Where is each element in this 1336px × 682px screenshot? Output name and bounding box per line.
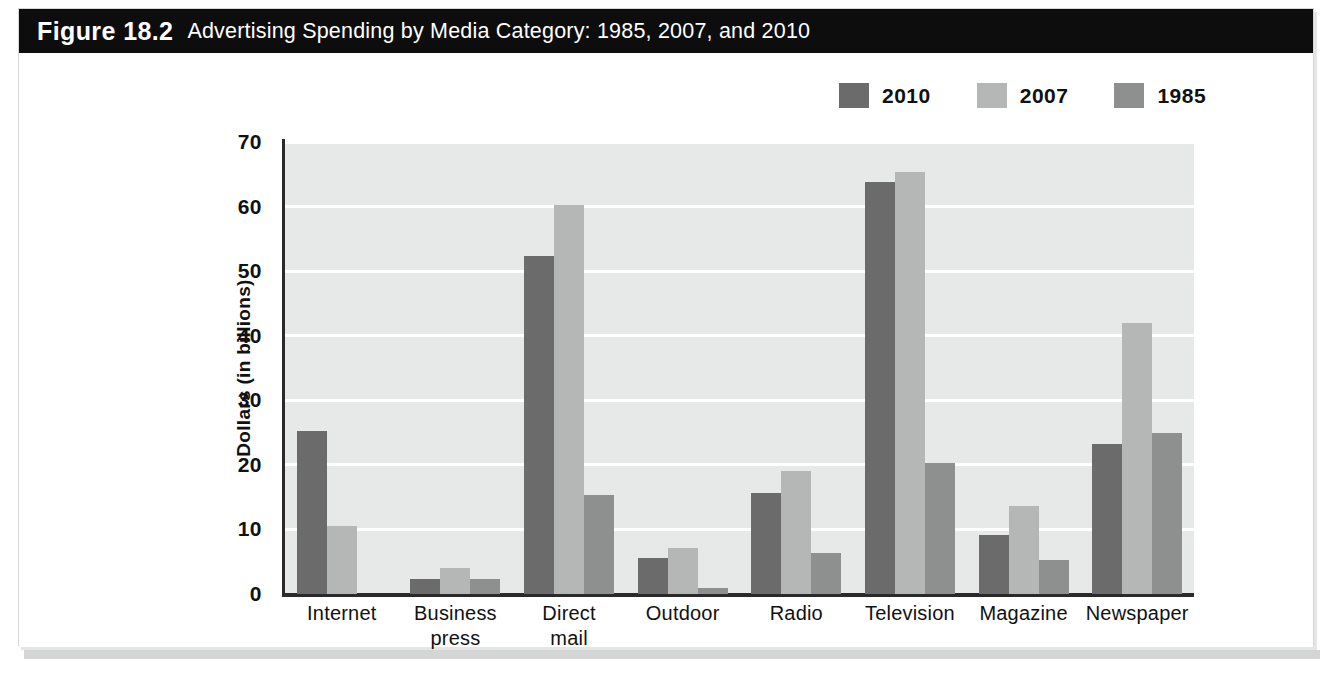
- bar: [440, 568, 470, 594]
- x-axis-label-line: press: [399, 626, 513, 651]
- legend-item-1985: 1985: [1114, 83, 1206, 108]
- bar: [865, 182, 895, 594]
- chart-legend: 201020071985: [839, 83, 1206, 108]
- bar: [751, 493, 781, 594]
- bar: [554, 205, 584, 594]
- bar: [638, 558, 668, 594]
- x-axis-label-line: Direct: [512, 601, 626, 626]
- x-axis-label-line: Outdoor: [626, 601, 740, 626]
- bar-group: [740, 142, 854, 594]
- legend-label-2007: 2007: [1020, 84, 1069, 108]
- x-axis-label-television: Television: [853, 601, 967, 651]
- card-shadow-strip: [24, 650, 1320, 659]
- x-axis-label-line: Television: [853, 601, 967, 626]
- x-axis-label-line: Business: [399, 601, 513, 626]
- bar-group: [512, 142, 626, 594]
- figure-number: Figure 18.2: [37, 17, 173, 46]
- legend-swatch-1985: [1114, 83, 1144, 108]
- x-axis-label-outdoor: Outdoor: [626, 601, 740, 651]
- bar-group: [853, 142, 967, 594]
- y-tick-label-10: 10: [202, 517, 262, 541]
- bar: [668, 548, 698, 594]
- x-axis-label-direct-mail: Directmail: [512, 601, 626, 651]
- bar: [1152, 433, 1182, 594]
- bar: [297, 431, 327, 594]
- bar: [1092, 444, 1122, 594]
- bar: [584, 495, 614, 594]
- figure-header: Figure 18.2 Advertising Spending by Medi…: [19, 9, 1313, 53]
- legend-label-1985: 1985: [1157, 84, 1206, 108]
- legend-label-2010: 2010: [882, 84, 931, 108]
- bar: [979, 535, 1009, 594]
- x-axis-label-line: Internet: [285, 601, 399, 626]
- legend-swatch-2007: [977, 83, 1007, 108]
- bar: [470, 579, 500, 594]
- chart-area: 201020071985 010203040506070 Dollars (in…: [19, 53, 1313, 647]
- bar-group: [1080, 142, 1194, 594]
- x-axis-label-line: mail: [512, 626, 626, 651]
- bar-group: [626, 142, 740, 594]
- bar: [781, 471, 811, 594]
- y-axis-label: Dollars (in billions): [233, 218, 255, 518]
- plot-area: 010203040506070 Dollars (in billions): [264, 142, 1194, 594]
- bar-group: [399, 142, 513, 594]
- x-axis-label-business-press: Businesspress: [399, 601, 513, 651]
- bar: [524, 256, 554, 594]
- figure-title: Advertising Spending by Media Category: …: [187, 19, 810, 44]
- bar: [1122, 323, 1152, 594]
- legend-item-2007: 2007: [977, 83, 1069, 108]
- bar: [895, 172, 925, 594]
- x-axis-label-line: Newspaper: [1080, 601, 1194, 626]
- bar: [1009, 506, 1039, 594]
- bar: [410, 579, 440, 594]
- bar-group: [967, 142, 1081, 594]
- bar-group: [285, 142, 399, 594]
- x-axis-label-magazine: Magazine: [967, 601, 1081, 651]
- x-axis-label-internet: Internet: [285, 601, 399, 651]
- legend-swatch-2010: [839, 83, 869, 108]
- x-axis-labels: InternetBusinesspressDirectmailOutdoorRa…: [285, 601, 1194, 651]
- legend-item-2010: 2010: [839, 83, 931, 108]
- bars-layer: [285, 142, 1194, 594]
- y-tick-label-70: 70: [202, 130, 262, 154]
- figure-card: Figure 18.2 Advertising Spending by Medi…: [18, 8, 1314, 646]
- bar: [327, 526, 357, 594]
- x-axis-label-radio: Radio: [740, 601, 854, 651]
- y-tick-label-60: 60: [202, 195, 262, 219]
- x-axis-label-newspaper: Newspaper: [1080, 601, 1194, 651]
- x-axis-label-line: Radio: [740, 601, 854, 626]
- bar: [1039, 560, 1069, 594]
- x-axis-label-line: Magazine: [967, 601, 1081, 626]
- bar: [925, 463, 955, 594]
- bar: [811, 553, 841, 594]
- bar: [698, 588, 728, 594]
- y-tick-label-0: 0: [202, 582, 262, 606]
